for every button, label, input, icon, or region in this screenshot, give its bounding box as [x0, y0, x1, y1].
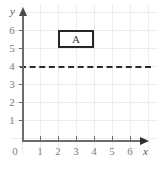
x-tick-label-4: 4: [87, 146, 101, 157]
x-axis-label: x: [143, 146, 148, 157]
y-tick-label-2: 2: [5, 97, 19, 108]
x-tick-label-6: 6: [123, 146, 137, 157]
y-tick-label-5: 5: [5, 43, 19, 54]
y-axis-label: y: [10, 6, 15, 17]
x-tick-label-1: 1: [33, 146, 47, 157]
coordinate-plane-figure: A 0 1 2 3 4 5 6 1 2 3 4 5 6 y x: [0, 0, 159, 171]
y-tick-label-3: 3: [5, 79, 19, 90]
label-layer: 0 1 2 3 4 5 6 1 2 3 4 5 6 y x: [0, 0, 159, 171]
x-tick-label-3: 3: [69, 146, 83, 157]
x-tick-label-2: 2: [51, 146, 65, 157]
y-tick-label-4: 4: [5, 61, 19, 72]
x-tick-label-5: 5: [105, 146, 119, 157]
y-tick-label-1: 1: [5, 115, 19, 126]
origin-label: 0: [8, 146, 22, 157]
y-tick-label-6: 6: [5, 25, 19, 36]
